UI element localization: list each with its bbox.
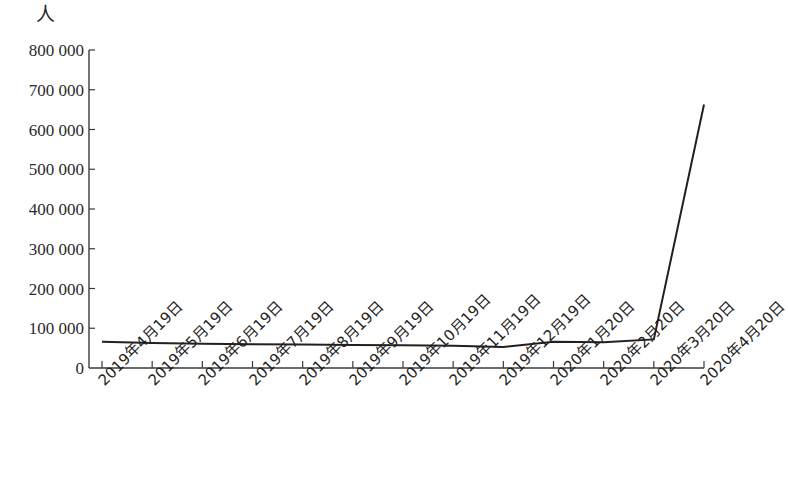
x-axis-tick-label: 2019年12月19日 [497,292,593,388]
x-axis-tick-label: 2019年4月19日 [96,299,186,389]
x-axis-tick-label: 2019年10月19日 [397,292,493,388]
x-axis-tick-label: 2019年11月19日 [447,292,543,388]
